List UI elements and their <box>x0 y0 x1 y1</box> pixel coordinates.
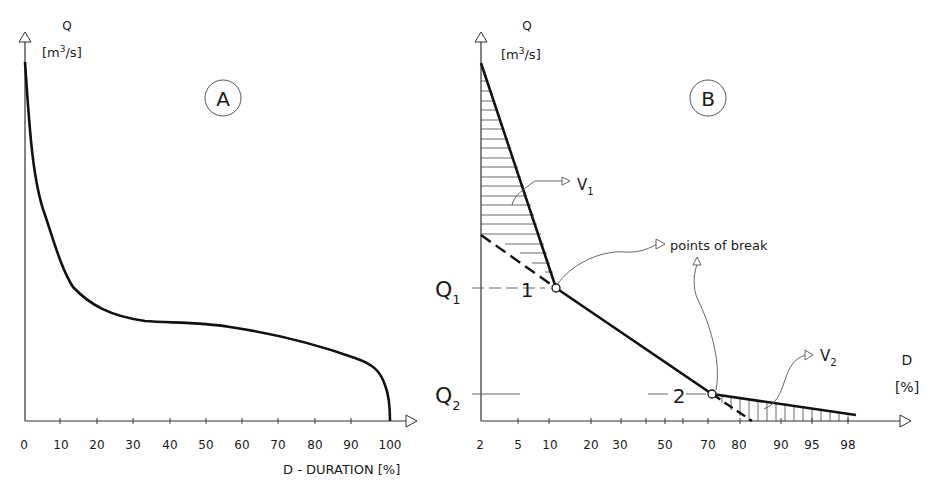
x-tick-label: 50 <box>198 438 213 452</box>
y-axis-unit-b: [m3/s] <box>501 46 541 62</box>
chart-b: 2 5 10 20 30 50 70 80 90 95 98 Q [m3/s] … <box>435 19 919 452</box>
x-tick-label: 10 <box>53 438 68 452</box>
x-tick-label: 2 <box>476 438 484 452</box>
x-tick-label: 95 <box>804 438 819 452</box>
y-axis-label-a: Q <box>62 19 71 33</box>
break-point-1 <box>552 284 560 292</box>
break-point-2-label: 2 <box>673 384 686 408</box>
break-point-1-label: 1 <box>521 278 534 302</box>
extrapolated-line-upper <box>481 235 556 288</box>
q1-label: Q1 <box>435 277 461 307</box>
break-point-2 <box>708 390 716 398</box>
x-tick-label: 30 <box>125 438 140 452</box>
duration-line-b <box>481 63 856 415</box>
v1-arrow-icon <box>562 177 570 185</box>
x-tick-label: 50 <box>657 438 672 452</box>
v2-leader <box>764 355 806 409</box>
break-arrow-icon <box>693 257 701 265</box>
duration-curve-a <box>25 62 390 421</box>
figure: 0 10 20 30 40 50 60 70 80 90 100 D - DUR… <box>0 0 941 494</box>
v2-arrow-icon <box>805 350 813 360</box>
y-axis-arrow-icon <box>19 32 31 42</box>
break-leader-2 <box>694 265 717 390</box>
x-tick-label: 20 <box>583 438 598 452</box>
v2-label: V2 <box>820 347 837 368</box>
v1-label: V1 <box>577 176 594 197</box>
x-tick-label: 0 <box>20 438 28 452</box>
x-tick-label: 20 <box>89 438 104 452</box>
break-leader-1 <box>557 244 657 285</box>
x-tick-label: 70 <box>270 438 285 452</box>
x-axis-arrow-icon <box>900 415 911 427</box>
chart-a: 0 10 20 30 40 50 60 70 80 90 100 D - DUR… <box>19 19 417 477</box>
x-axis-label-a: D - DURATION [%] <box>283 462 400 477</box>
x-tick-label: 90 <box>773 438 788 452</box>
x-tick-label: 70 <box>700 438 715 452</box>
x-axis-label-b: D <box>902 352 913 368</box>
x-tick-label: 98 <box>840 438 855 452</box>
x-tick-label: 40 <box>162 438 177 452</box>
hatch-v2 <box>722 396 848 421</box>
chart-label-a: A <box>216 87 230 111</box>
y-axis-label-b: Q <box>522 19 531 33</box>
x-tick-label: 80 <box>731 438 746 452</box>
chart-label-b: B <box>701 87 715 111</box>
x-axis-arrow-icon <box>406 415 417 427</box>
x-tick-label: 10 <box>542 438 557 452</box>
x-tick-label: 100 <box>379 438 402 452</box>
x-tick-label: 90 <box>343 438 358 452</box>
q2-label: Q2 <box>435 383 461 413</box>
x-tick-label: 5 <box>514 438 522 452</box>
y-axis-arrow-icon <box>475 32 487 42</box>
break-arrow-icon <box>656 239 665 249</box>
x-axis-unit-b: [%] <box>895 379 919 395</box>
x-tick-label: 80 <box>307 438 322 452</box>
v1-leader <box>512 181 562 205</box>
x-tick-label: 30 <box>612 438 627 452</box>
points-of-break-label: points of break <box>670 238 768 253</box>
x-tick-label: 60 <box>234 438 249 452</box>
y-axis-unit-a: [m3/s] <box>42 44 82 60</box>
